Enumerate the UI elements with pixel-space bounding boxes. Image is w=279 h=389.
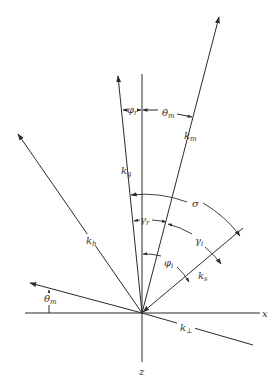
- phi-i-label: φi: [164, 257, 173, 270]
- sigma-arc-right: [203, 203, 240, 236]
- z-axis-label: z: [138, 366, 145, 377]
- gamma-i-label: γi: [195, 235, 203, 248]
- gamma-r-label: γr: [140, 214, 150, 227]
- gamma-i-arc-upper: [168, 224, 192, 234]
- theta-m-top-label: θm: [162, 107, 175, 120]
- gamma-r-arc-right: [152, 220, 166, 222]
- k-s-vector: [143, 228, 243, 312]
- sigma-arc-left: [131, 194, 187, 202]
- gamma-i-arc-lower: [205, 247, 221, 264]
- k-perp-line: [142, 313, 253, 345]
- phi-r-label: φr: [127, 104, 138, 117]
- sigma-label: σ: [192, 198, 200, 209]
- vector-angle-diagram: x z km kg kh ks k⊥ θm φr θm σ γr γi φi: [0, 0, 279, 389]
- theta-m-top-dimension-right: [177, 114, 192, 117]
- k-g-label: kg: [121, 165, 132, 178]
- k-m-label: km: [184, 130, 197, 143]
- x-axis-label: x: [262, 308, 268, 319]
- phi-i-arc-upper: [143, 254, 161, 256]
- k-h-vector: [18, 134, 142, 313]
